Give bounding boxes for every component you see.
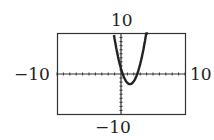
plot-area	[0, 0, 214, 140]
function-curve	[114, 34, 148, 85]
